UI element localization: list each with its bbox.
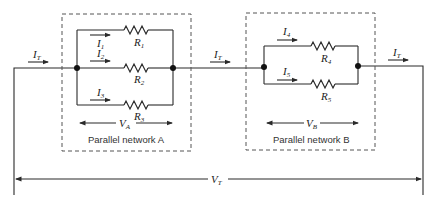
parallel-network-a: I1 I2 I3 R1 R2 R3 VA Parallel network A	[62, 14, 191, 151]
label-r2: R2	[133, 73, 145, 87]
label-i4: I4	[282, 25, 291, 39]
resistor-r5	[311, 80, 335, 88]
label-r3: R3	[133, 110, 145, 124]
circuit-diagram: I1 I2 I3 R1 R2 R3 VA Parallel network A …	[0, 0, 434, 204]
node-a-left	[74, 65, 80, 71]
node-a-right	[170, 65, 176, 71]
label-vt: VT	[211, 173, 223, 187]
total-voltage-indicator: VT	[16, 173, 421, 187]
total-current-indicators: IT IT IT	[28, 46, 408, 62]
label-it-middle: IT	[213, 48, 223, 62]
label-r4: R4	[320, 52, 332, 66]
resistor-r3	[124, 101, 148, 109]
resistor-r2	[124, 64, 148, 72]
label-r1: R1	[133, 36, 144, 50]
label-vb: VB	[306, 117, 318, 131]
main-wiring	[14, 66, 423, 195]
resistor-r4	[311, 42, 335, 50]
label-i5: I5	[282, 65, 291, 79]
resistor-r1	[124, 26, 148, 34]
caption-network-a: Parallel network A	[88, 134, 165, 145]
caption-network-b: Parallel network B	[273, 134, 350, 145]
label-it-right: IT	[392, 46, 402, 60]
node-b-left	[261, 64, 267, 70]
node-b-right	[355, 63, 361, 69]
label-it-left: IT	[32, 48, 42, 62]
parallel-network-b: I4 I5 R4 R5 VB Parallel network B	[246, 13, 375, 150]
label-i3: I3	[96, 86, 105, 100]
label-r5: R5	[320, 90, 332, 104]
network-b-boundary	[246, 13, 375, 150]
label-va: VA	[119, 117, 131, 131]
